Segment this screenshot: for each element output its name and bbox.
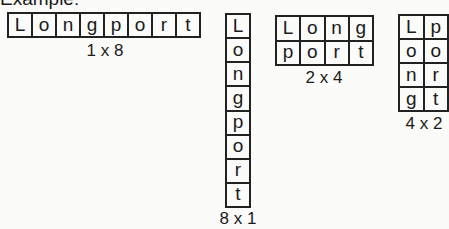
grid-label-4x2: 4 x 2 (384, 115, 449, 133)
grid-1x8: L o n g p o r t (7, 12, 201, 38)
letter-cell: t (349, 41, 373, 66)
letter-cell: L (399, 15, 424, 39)
letter-cell: r (424, 63, 449, 87)
letter-cell: L (226, 14, 250, 38)
letter-cell: t (176, 13, 200, 37)
grid-8x1: L o n g p o r t (225, 13, 251, 208)
letter-cell: r (226, 159, 250, 183)
letter-cell: g (399, 87, 424, 111)
letter-cell: o (300, 41, 324, 66)
letter-cell: p (104, 13, 128, 37)
letter-cell: t (226, 183, 250, 207)
grid-label-1x8: 1 x 8 (60, 42, 150, 60)
letter-cell: n (325, 16, 349, 41)
grid-label-2x4: 2 x 4 (284, 69, 364, 87)
letter-cell: n (56, 13, 80, 37)
grid-label-8x1: 8 x 1 (198, 210, 278, 228)
grid-2x4: L o n g p o r t (275, 15, 374, 66)
letter-cell: n (226, 62, 250, 86)
letter-cell: o (226, 135, 250, 159)
letter-cell: o (399, 39, 424, 63)
letter-cell: o (226, 38, 250, 62)
letter-cell: t (424, 87, 449, 111)
letter-cell: p (276, 41, 300, 66)
letter-cell: r (152, 13, 176, 37)
letter-cell: o (128, 13, 152, 37)
grid-4x2: L p o o n r g t (398, 14, 449, 112)
letter-cell: g (226, 86, 250, 110)
letter-cell: n (399, 63, 424, 87)
letter-cell: p (226, 111, 250, 135)
letter-cell: g (80, 13, 104, 37)
letter-cell: o (300, 16, 324, 41)
letter-cell: o (32, 13, 56, 37)
letter-cell: p (424, 15, 449, 39)
letter-cell: g (349, 16, 373, 41)
letter-cell: o (424, 39, 449, 63)
example-heading: Example: (0, 0, 79, 9)
letter-cell: L (276, 16, 300, 41)
letter-cell: L (8, 13, 32, 37)
letter-cell: r (325, 41, 349, 66)
